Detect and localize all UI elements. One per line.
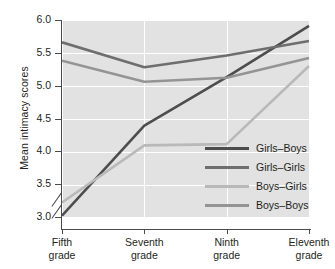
line-chart: Mean intimacy scores 6.05.55.04.54.03.53…	[0, 0, 335, 269]
y-tick-mark	[55, 119, 61, 120]
legend-color-swatch	[205, 166, 249, 169]
legend-item-label: Boys–Girls	[256, 177, 307, 195]
x-tick-mark	[227, 229, 228, 234]
legend-color-swatch	[205, 185, 249, 188]
legend-color-swatch	[205, 204, 249, 207]
y-tick-mark	[55, 151, 61, 152]
x-tick-label-line1: Fifth	[19, 236, 105, 249]
y-tick-label: 4.5	[21, 113, 51, 123]
x-tick-label-line2: grade	[184, 249, 270, 262]
x-tick-label-line1: Ninth	[184, 236, 270, 249]
y-tick-mark	[55, 184, 61, 185]
y-tick-label: 4.0	[21, 145, 51, 155]
x-tick-mark	[144, 229, 145, 234]
x-tick-label: Ninthgrade	[184, 236, 270, 261]
x-tick-mark	[62, 229, 63, 234]
y-tick-label: 3.5	[21, 178, 51, 188]
x-tick-label-line2: grade	[19, 249, 105, 262]
legend-item-label: Boys–Boys	[256, 196, 309, 214]
y-tick-label: 5.5	[21, 47, 51, 57]
legend-item-label: Girls–Boys	[256, 139, 307, 157]
series-line	[62, 41, 309, 67]
x-axis-line	[61, 229, 311, 230]
x-tick-label-line1: Seventh	[101, 236, 187, 249]
x-tick-label: Seventhgrade	[101, 236, 187, 261]
y-tick-mark	[55, 53, 61, 54]
x-tick-label: Eleventhgrade	[266, 236, 335, 261]
y-tick-mark	[55, 20, 61, 21]
y-tick-mark	[55, 217, 61, 218]
y-tick-label: 5.0	[21, 80, 51, 90]
legend-color-swatch	[205, 147, 249, 150]
y-tick-label: 3.0	[21, 211, 51, 221]
x-tick-label: Fifthgrade	[19, 236, 105, 261]
x-tick-label-line1: Eleventh	[266, 236, 335, 249]
x-tick-label-line2: grade	[266, 249, 335, 262]
y-tick-mark	[55, 86, 61, 87]
axis-break-icon	[52, 196, 72, 226]
y-tick-label: 6.0	[21, 14, 51, 24]
x-tick-label-line2: grade	[101, 249, 187, 262]
legend-item-label: Girls–Girls	[256, 158, 305, 176]
x-tick-mark	[309, 229, 310, 234]
